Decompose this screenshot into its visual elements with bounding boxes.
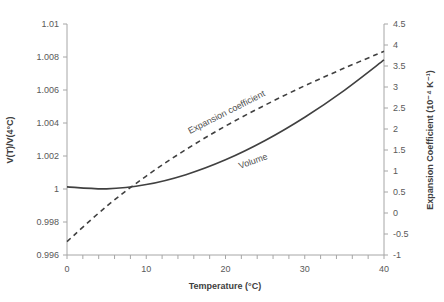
y2-tick-label: 4	[393, 40, 398, 50]
volume-label: Volume	[237, 151, 269, 171]
y-tick-label: 1.008	[36, 52, 59, 62]
volume-line	[67, 60, 384, 189]
y-tick-label: 1.01	[41, 19, 59, 29]
y2-tick-label: 1	[393, 166, 398, 176]
y2-tick-label: 4.5	[393, 19, 406, 29]
y2-tick-label: 1.5	[393, 145, 406, 155]
y-axis-title: V(T)/V(4°C)	[5, 116, 15, 163]
y-tick-label: 0.996	[36, 250, 59, 260]
y2-axis-title: Expansion Coefficient (10⁻⁴ K⁻¹)	[425, 70, 435, 209]
plot-area: Expansion coefficientVolume	[67, 51, 384, 241]
y-tick-label: 1.002	[36, 151, 59, 161]
chart: 0.9960.99811.0021.0041.0061.0081.01-1-0.…	[0, 0, 444, 302]
y2-tick-label: 3.5	[393, 61, 406, 71]
expansion-coefficient-label: Expansion coefficient	[186, 88, 267, 136]
y-tick-label: 1.006	[36, 85, 59, 95]
y2-tick-label: -1	[393, 250, 401, 260]
x-tick-label: 40	[379, 264, 389, 274]
y-tick-label: 1.004	[36, 118, 59, 128]
y-tick-label: 0.998	[36, 217, 59, 227]
y-tick-label: 1	[54, 184, 59, 194]
x-tick-label: 10	[141, 264, 151, 274]
x-tick-label: 20	[220, 264, 230, 274]
y2-tick-label: 2.5	[393, 103, 406, 113]
y2-tick-label: 3	[393, 82, 398, 92]
y2-tick-label: 2	[393, 124, 398, 134]
y2-tick-label: -0.5	[393, 229, 409, 239]
y2-tick-label: 0	[393, 208, 398, 218]
x-axis-title: Temperature (°C)	[189, 281, 261, 291]
axes: 0.9960.99811.0021.0041.0061.0081.01-1-0.…	[36, 19, 408, 274]
x-tick-label: 30	[300, 264, 310, 274]
x-tick-label: 0	[64, 264, 69, 274]
y2-tick-label: 0.5	[393, 187, 406, 197]
expansion-coefficient-line	[67, 51, 384, 241]
